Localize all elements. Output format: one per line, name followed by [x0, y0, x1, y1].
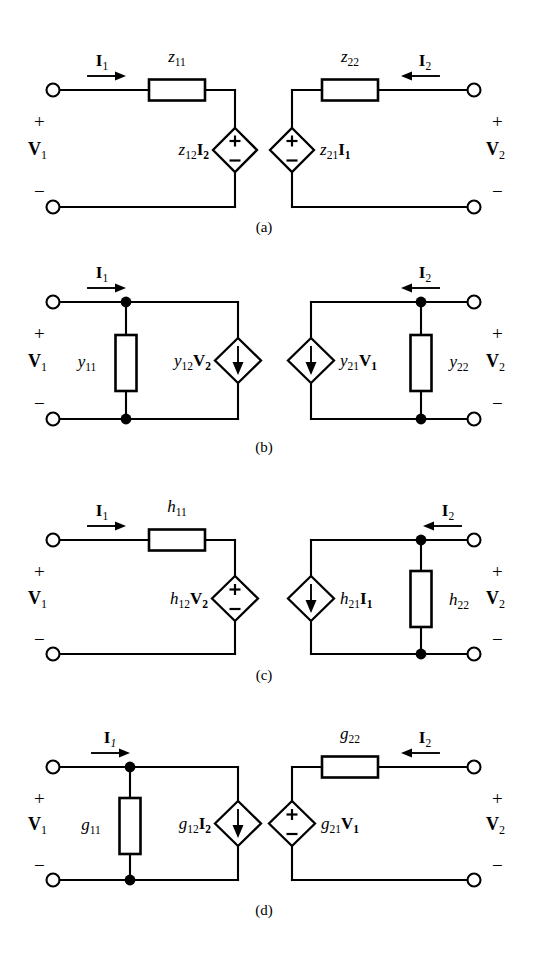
- element-c-h11-box: [149, 530, 205, 551]
- label-c-element-h11: h11: [167, 498, 187, 515]
- label-c-voltage-v1: V1: [28, 589, 47, 607]
- source-c-left-diamond: [212, 576, 258, 621]
- arrow-a-i2-head: [401, 72, 412, 81]
- caption-panel-a: (a): [256, 220, 273, 235]
- arrow-c-i2-head: [423, 522, 434, 531]
- label-d-voltage-v2: V2: [486, 815, 505, 833]
- label-a-current-i2: I2: [419, 52, 431, 69]
- label-b-element-y11: y11: [78, 353, 97, 370]
- label-a-right-plus: +: [492, 112, 503, 131]
- arrow-a-i1-head: [115, 72, 126, 81]
- label-b-element-y22: y22: [449, 353, 468, 370]
- terminal-a-right-bottom: [468, 201, 481, 214]
- label-c-element-h22: h22: [449, 591, 469, 608]
- element-b-y22-box: [411, 335, 432, 391]
- label-c-right-minus: −: [492, 630, 503, 649]
- arrow-b-i1-head: [115, 284, 126, 293]
- label-a-element-z11: z11: [168, 48, 186, 65]
- label-c-current-i1: I1: [96, 502, 108, 519]
- label-a-current-i1: I1: [96, 52, 108, 69]
- source-a-right-diamond: [270, 128, 314, 172]
- label-d-element-g11: g11: [81, 816, 101, 833]
- figure-two-port-equivalent-circuits: I1 I2 z11 z22 + − + − V1 V2 z12I2 z21I1 …: [0, 0, 537, 958]
- caption-panel-c: (c): [256, 668, 273, 683]
- arrow-d-i1-head: [119, 749, 130, 758]
- label-c-source-left-h12v2: h12V2: [170, 590, 208, 607]
- label-d-left-minus: −: [34, 856, 45, 875]
- panel-d-circuit: [47, 749, 481, 887]
- label-a-left-minus: −: [34, 182, 45, 201]
- label-c-voltage-v2: V2: [486, 589, 505, 607]
- label-b-current-i2: I2: [419, 264, 431, 281]
- label-d-element-g22: g22: [340, 725, 360, 742]
- label-d-current-i2: I2: [419, 729, 431, 746]
- label-d-current-i1: I1: [104, 729, 116, 746]
- terminal-d-left-bottom: [47, 874, 60, 887]
- source-a-left-diamond: [213, 128, 257, 172]
- label-d-left-plus: +: [34, 789, 45, 808]
- label-b-voltage-v1: V1: [28, 352, 47, 370]
- source-d-right-diamond: [269, 801, 315, 846]
- terminal-a-right-top: [468, 84, 481, 97]
- element-d-g11-box: [120, 798, 141, 854]
- panel-b-circuit: [47, 284, 481, 426]
- label-a-voltage-v2: V2: [486, 140, 505, 158]
- label-a-voltage-v1: V1: [28, 140, 47, 158]
- label-b-current-i1: I1: [96, 264, 108, 281]
- terminal-a-left-top: [47, 84, 60, 97]
- terminal-c-right-bottom: [468, 648, 481, 661]
- label-b-voltage-v2: V2: [486, 352, 505, 370]
- terminal-c-right-top: [468, 534, 481, 547]
- label-b-source-right-y21v1: y21V1: [340, 352, 377, 369]
- label-c-source-right-h21i1: h21I1: [340, 590, 372, 607]
- terminal-b-left-top: [47, 296, 60, 309]
- element-b-y11-box: [116, 335, 137, 391]
- label-b-right-plus: +: [492, 324, 503, 343]
- element-a-z22-box: [322, 80, 378, 101]
- arrow-c-i1-head: [115, 522, 126, 531]
- caption-panel-d: (d): [255, 903, 273, 918]
- label-a-left-plus: +: [34, 112, 45, 131]
- terminal-c-left-top: [47, 534, 60, 547]
- label-a-source-left-z12i2: z12I2: [179, 141, 210, 158]
- label-d-source-left-g12i2: g12I2: [179, 815, 211, 832]
- caption-panel-b: (b): [255, 440, 273, 455]
- label-a-source-right-z21i1: z21I1: [320, 141, 351, 158]
- label-c-left-minus: −: [34, 630, 45, 649]
- terminal-d-right-top: [468, 761, 481, 774]
- label-d-source-right-g21v1: g21V1: [321, 815, 359, 832]
- arrow-d-i2-head: [401, 749, 412, 758]
- terminal-b-left-bottom: [47, 413, 60, 426]
- element-d-g22-box: [322, 757, 378, 778]
- label-b-source-left-y12v2: y12V2: [174, 352, 211, 369]
- label-d-right-minus: −: [492, 856, 503, 875]
- panel-a-circuit: [47, 72, 481, 214]
- label-c-current-i2: I2: [442, 502, 454, 519]
- terminal-d-left-top: [47, 761, 60, 774]
- terminal-b-right-bottom: [468, 413, 481, 426]
- element-c-h22-box: [411, 571, 432, 627]
- label-a-right-minus: −: [492, 182, 503, 201]
- label-c-left-plus: +: [34, 562, 45, 581]
- label-c-right-plus: +: [492, 562, 503, 581]
- label-b-left-minus: −: [34, 394, 45, 413]
- terminal-c-left-bottom: [47, 648, 60, 661]
- panel-c-circuit: [47, 522, 481, 661]
- label-d-voltage-v1: V1: [28, 815, 47, 833]
- terminal-d-right-bottom: [468, 874, 481, 887]
- label-a-element-z22: z22: [341, 48, 359, 65]
- label-b-right-minus: −: [492, 394, 503, 413]
- label-d-right-plus: +: [492, 789, 503, 808]
- arrow-b-i2-head: [401, 284, 412, 293]
- terminal-b-right-top: [468, 296, 481, 309]
- element-a-z11-box: [149, 80, 205, 101]
- terminal-a-left-bottom: [47, 201, 60, 214]
- label-b-left-plus: +: [34, 324, 45, 343]
